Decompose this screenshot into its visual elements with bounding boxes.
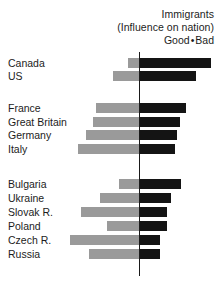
- bar-bad: [140, 71, 196, 81]
- bar-good: [89, 249, 139, 259]
- bar-row: Czech R.: [0, 234, 223, 247]
- bar-good: [119, 179, 139, 189]
- bar-row: Ukraine: [0, 192, 223, 205]
- category-label: France: [8, 102, 41, 115]
- plot-area: CanadaUSFranceGreat BritainGermanyItalyB…: [0, 0, 223, 283]
- category-label: Great Britain: [8, 116, 67, 129]
- bar-bad: [140, 235, 160, 245]
- bar-bad: [140, 144, 175, 154]
- bar-good: [107, 221, 139, 231]
- category-label: US: [8, 70, 23, 83]
- bar-good: [100, 193, 139, 203]
- bar-good: [70, 235, 139, 245]
- category-label: Italy: [8, 143, 27, 156]
- bar-row: Great Britain: [0, 116, 223, 129]
- bar-bad: [140, 130, 177, 140]
- bar-good: [81, 207, 139, 217]
- category-label: Bulgaria: [8, 178, 47, 191]
- category-label: Ukraine: [8, 192, 44, 205]
- bar-bad: [140, 249, 160, 259]
- bar-good: [86, 130, 139, 140]
- bar-row: US: [0, 70, 223, 83]
- bar-row: Italy: [0, 143, 223, 156]
- bar-row: France: [0, 102, 223, 115]
- bar-bad: [140, 207, 167, 217]
- bar-bad: [140, 193, 171, 203]
- bar-bad: [140, 117, 180, 127]
- bar-row: Russia: [0, 248, 223, 261]
- category-label: Canada: [8, 57, 45, 70]
- bar-row: Bulgaria: [0, 178, 223, 191]
- bar-bad: [140, 103, 186, 113]
- bar-row: Slovak R.: [0, 206, 223, 219]
- bar-good: [113, 71, 139, 81]
- category-label: Germany: [8, 129, 51, 142]
- category-label: Russia: [8, 248, 40, 261]
- bar-good: [128, 58, 139, 68]
- category-label: Poland: [8, 220, 41, 233]
- bar-bad: [140, 221, 167, 231]
- bar-row: Canada: [0, 57, 223, 70]
- category-label: Czech R.: [8, 234, 51, 247]
- bar-good: [78, 144, 139, 154]
- bar-good: [96, 103, 139, 113]
- bar-bad: [140, 58, 211, 68]
- bar-row: Poland: [0, 220, 223, 233]
- bar-row: Germany: [0, 129, 223, 142]
- bar-bad: [140, 179, 181, 189]
- immigrants-chart: Immigrants (Influence on nation) Good•Ba…: [0, 0, 223, 283]
- bar-good: [93, 117, 139, 127]
- category-label: Slovak R.: [8, 206, 53, 219]
